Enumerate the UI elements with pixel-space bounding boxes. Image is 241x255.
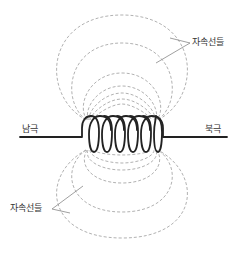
flux-lines-top [57, 15, 188, 120]
north-pole-label: 북극 [205, 124, 221, 134]
leader-lines [52, 38, 190, 213]
solenoid-diagram: 남극 북극 자속선들 자속선들 [0, 0, 241, 255]
solenoid-coil [20, 116, 227, 152]
flux-lines-bottom-label: 자속선들 [10, 203, 42, 213]
flux-lines-top-label: 자속선들 [192, 37, 224, 47]
south-pole-label: 남극 [22, 124, 38, 134]
flux-lines-bottom [57, 150, 188, 238]
